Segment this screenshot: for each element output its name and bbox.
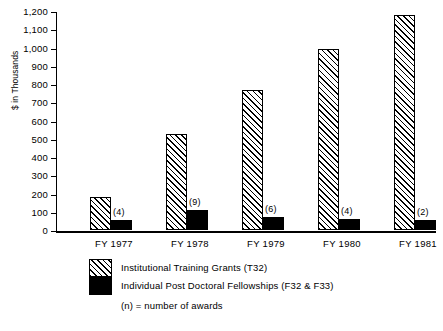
y-tick-label: 900 bbox=[8, 61, 48, 72]
award-count-fy1977: (4) bbox=[113, 207, 125, 217]
y-tick-mark bbox=[51, 158, 57, 159]
y-tick-label: 1,200 bbox=[8, 6, 48, 17]
legend-item-individual[interactable]: Individual Post Doctoral Fellowships (F3… bbox=[89, 277, 419, 295]
legend-label-individual: Individual Post Doctoral Fellowships (F3… bbox=[121, 280, 334, 291]
y-tick-mark bbox=[51, 213, 57, 214]
bar-group-fy1979: (6) bbox=[242, 11, 290, 230]
x-tick-label-fy1978: FY 1978 bbox=[153, 238, 227, 249]
x-tick-label-fy1980: FY 1980 bbox=[305, 238, 379, 249]
bar-institutional-fy1978[interactable] bbox=[166, 134, 187, 231]
y-tick-mark bbox=[51, 12, 57, 13]
bar-chart-figure: $ in Thousands 1,200 1,100 1,000 900 800… bbox=[0, 0, 443, 331]
y-tick-label: 200 bbox=[8, 189, 48, 200]
y-tick-mark bbox=[51, 85, 57, 86]
bar-individual-fy1977[interactable] bbox=[111, 220, 132, 230]
legend-swatch-hatched-icon bbox=[89, 259, 112, 277]
award-count-fy1979: (6) bbox=[265, 204, 277, 214]
y-tick-label: 1,000 bbox=[8, 43, 48, 54]
y-tick-mark bbox=[51, 30, 57, 31]
chart-legend: Institutional Training Grants (T32) Indi… bbox=[89, 259, 419, 295]
bar-individual-fy1981[interactable] bbox=[415, 220, 436, 230]
y-tick-label: 700 bbox=[8, 97, 48, 108]
bar-individual-fy1978[interactable] bbox=[187, 210, 208, 230]
legend-swatch-solid-icon bbox=[89, 277, 112, 295]
y-tick-label: 300 bbox=[8, 170, 48, 181]
x-tick-label-fy1979: FY 1979 bbox=[229, 238, 303, 249]
award-count-fy1978: (9) bbox=[189, 197, 201, 207]
award-count-fy1981: (2) bbox=[417, 207, 429, 217]
bar-institutional-fy1977[interactable] bbox=[90, 197, 111, 231]
y-tick-mark bbox=[51, 67, 57, 68]
y-tick-label: 600 bbox=[8, 116, 48, 127]
award-count-fy1980: (4) bbox=[341, 206, 353, 216]
y-tick-label: 500 bbox=[8, 134, 48, 145]
y-tick-mark bbox=[51, 231, 57, 232]
bar-group-fy1978: (9) bbox=[166, 11, 214, 230]
y-tick-mark bbox=[51, 103, 57, 104]
bar-group-fy1981: (2) bbox=[394, 11, 442, 230]
bar-individual-fy1980[interactable] bbox=[339, 219, 360, 231]
y-tick-mark bbox=[51, 195, 57, 196]
y-tick-label: 800 bbox=[8, 79, 48, 90]
bar-institutional-fy1981[interactable] bbox=[394, 15, 415, 230]
plot-area: 1,200 1,100 1,000 900 800 700 600 500 bbox=[56, 12, 436, 232]
bar-group-fy1977: (4) bbox=[90, 11, 138, 230]
x-tick-label-fy1977: FY 1977 bbox=[77, 238, 151, 249]
bar-institutional-fy1979[interactable] bbox=[242, 90, 263, 230]
x-axis-line bbox=[56, 231, 436, 233]
y-tick-mark bbox=[51, 49, 57, 50]
y-tick-mark bbox=[51, 140, 57, 141]
y-tick-label: 100 bbox=[8, 207, 48, 218]
legend-footnote: (n) = number of awards bbox=[121, 300, 223, 311]
y-tick-label: 0 bbox=[8, 225, 48, 236]
bar-individual-fy1979[interactable] bbox=[263, 217, 284, 231]
x-tick-label-fy1981: FY 1981 bbox=[381, 238, 443, 249]
y-tick-mark bbox=[51, 176, 57, 177]
bar-institutional-fy1980[interactable] bbox=[318, 49, 339, 230]
legend-label-institutional: Institutional Training Grants (T32) bbox=[121, 262, 267, 273]
y-tick-label: 1,100 bbox=[8, 24, 48, 35]
y-tick-label: 400 bbox=[8, 152, 48, 163]
legend-item-institutional[interactable]: Institutional Training Grants (T32) bbox=[89, 259, 419, 277]
bar-group-fy1980: (4) bbox=[318, 11, 366, 230]
y-tick-mark bbox=[51, 122, 57, 123]
